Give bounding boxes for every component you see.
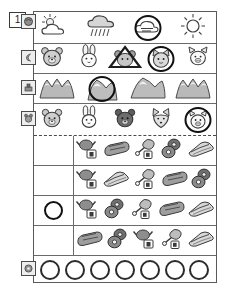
row-marker-cell[interactable] [34, 166, 74, 195]
mountain-icon [85, 76, 119, 102]
bread-loaf-icon [101, 138, 131, 164]
animal-cell[interactable] [143, 44, 179, 73]
answer-bubble[interactable] [90, 260, 110, 280]
dark-bear-face-icon [113, 106, 137, 134]
food-cell[interactable] [74, 228, 104, 254]
food-cell[interactable] [186, 138, 216, 164]
sandwich-icon [186, 138, 216, 164]
food-cell[interactable] [186, 198, 216, 224]
food-cell[interactable] [131, 166, 158, 196]
moon-tab-icon[interactable] [21, 50, 36, 65]
table-row[interactable] [34, 226, 216, 256]
worksheet-frame [33, 11, 217, 283]
weather-cell[interactable] [125, 12, 171, 43]
table-row[interactable] [34, 136, 216, 166]
cat-face-icon [148, 47, 174, 71]
table-row[interactable] [34, 196, 216, 226]
chicken-rice-icon [75, 166, 101, 196]
table-row[interactable] [34, 166, 216, 196]
animal-row-2 [34, 104, 216, 136]
food-cell[interactable] [101, 168, 131, 194]
bread-loaf-icon [74, 228, 104, 254]
answer-bubble[interactable] [65, 260, 85, 280]
food-cell[interactable] [159, 226, 186, 256]
animal-cell[interactable] [70, 104, 106, 135]
food-cell[interactable] [74, 166, 101, 196]
animal-tab-icon[interactable] [21, 111, 36, 126]
animal-cell[interactable] [180, 104, 216, 135]
sandwich-icon [186, 198, 216, 224]
donut-icon [189, 167, 215, 195]
animal-row-1 [34, 44, 216, 74]
food-cell[interactable] [74, 196, 101, 226]
animal-cell[interactable] [107, 44, 143, 73]
food-cell[interactable] [156, 198, 186, 224]
food-cell[interactable] [186, 228, 216, 254]
weather-cell[interactable] [171, 12, 217, 43]
rabbit-face-icon [77, 44, 101, 74]
row-marker-cell[interactable] [34, 136, 74, 165]
donut-icon [105, 227, 131, 255]
cloud-wind-icon [131, 15, 165, 41]
mountain-icon [129, 74, 167, 104]
animal-cell[interactable] [34, 104, 70, 135]
weather-cell[interactable] [34, 12, 80, 43]
mouse-face-icon [107, 44, 143, 74]
meat-leg-icon [129, 196, 155, 226]
chicken-rice-icon [75, 136, 101, 166]
animal-cell[interactable] [180, 44, 216, 73]
food-cell[interactable] [131, 226, 158, 256]
rabbit-face-icon [78, 105, 100, 135]
meat-leg-icon [132, 136, 158, 166]
pig-face-icon [186, 108, 210, 132]
bread-loaf-icon [156, 198, 186, 224]
fox-face-icon [149, 106, 173, 134]
food-cell[interactable] [101, 138, 131, 164]
food-cell[interactable] [159, 137, 186, 165]
row-marker-cell[interactable] [34, 226, 74, 255]
weather-cell[interactable] [80, 12, 126, 43]
food-cell[interactable] [159, 168, 189, 194]
bear-face-icon [39, 45, 65, 73]
mountain-cell[interactable] [34, 74, 80, 103]
answer-bubble[interactable] [189, 260, 209, 280]
sun-icon [178, 12, 208, 44]
answer-tab-icon[interactable] [21, 261, 36, 276]
chicken-rice-icon [132, 226, 158, 256]
selected-row-circle-icon [44, 201, 63, 220]
animal-cell[interactable] [34, 44, 70, 73]
meat-leg-icon [132, 166, 158, 196]
mountain-cell[interactable] [171, 74, 217, 103]
answer-bubbles[interactable] [34, 256, 216, 284]
bread-loaf-icon [159, 168, 189, 194]
food-cell[interactable] [131, 136, 158, 166]
mountain-row [34, 74, 216, 104]
food-cell[interactable] [189, 167, 216, 195]
rain-cloud-icon [82, 12, 122, 44]
weather-tab-icon[interactable] [21, 14, 36, 29]
animal-cell[interactable] [70, 44, 106, 73]
bear-face-icon [40, 106, 64, 134]
answer-bubble[interactable] [115, 260, 135, 280]
food-cell[interactable] [101, 197, 128, 225]
chicken-rice-icon [75, 196, 101, 226]
answer-bubble[interactable] [165, 260, 185, 280]
food-cell[interactable] [74, 136, 101, 166]
mountain-icon [38, 74, 76, 104]
sun-behind-cloud-icon [37, 13, 77, 43]
answer-bubble[interactable] [40, 260, 60, 280]
food-cell[interactable] [104, 227, 131, 255]
food-table [34, 136, 216, 256]
mountain-icon [174, 74, 212, 104]
animal-cell[interactable] [107, 104, 143, 135]
meat-leg-icon [159, 226, 185, 256]
answer-bubble[interactable] [140, 260, 160, 280]
sandwich-icon [186, 228, 216, 254]
stamp-tab-icon[interactable] [21, 80, 36, 95]
animal-cell[interactable] [143, 104, 179, 135]
answer-row [34, 256, 216, 284]
row-marker-cell[interactable] [34, 196, 74, 225]
mountain-cell[interactable] [80, 74, 126, 103]
mountain-cell[interactable] [125, 74, 171, 103]
food-cell[interactable] [129, 196, 156, 226]
